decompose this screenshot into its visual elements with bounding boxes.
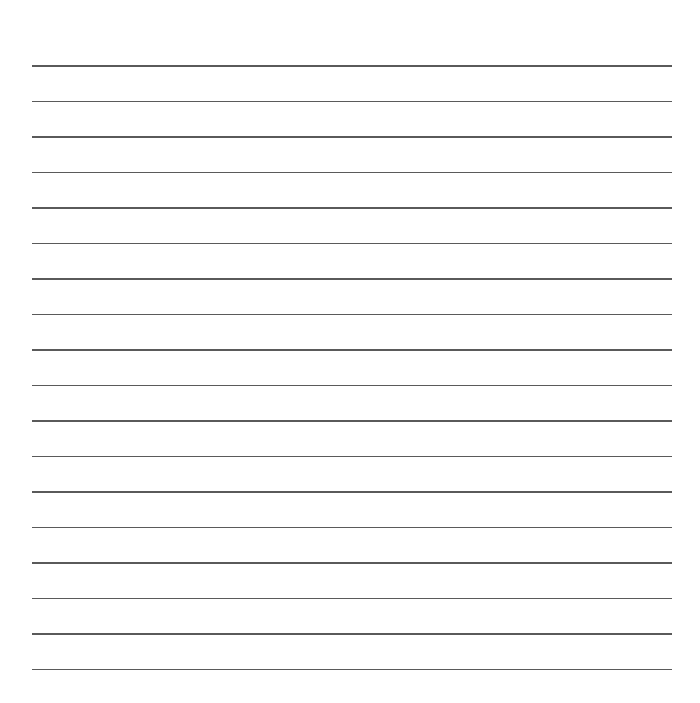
- ruled-line: [32, 669, 672, 671]
- lined-paper-page: [0, 0, 700, 703]
- ruled-line: [32, 314, 672, 316]
- ruled-line: [32, 598, 672, 600]
- ruled-line: [32, 65, 672, 67]
- ruled-line: [32, 527, 672, 529]
- ruled-line: [32, 385, 672, 387]
- ruled-line: [32, 562, 672, 564]
- ruled-line: [32, 101, 672, 103]
- ruled-line: [32, 420, 672, 422]
- ruled-line: [32, 456, 672, 458]
- ruled-line: [32, 278, 672, 280]
- ruled-line: [32, 349, 672, 351]
- ruled-line: [32, 491, 672, 493]
- ruled-line: [32, 136, 672, 138]
- ruled-line: [32, 633, 672, 635]
- ruled-line: [32, 207, 672, 209]
- ruled-line: [32, 243, 672, 245]
- ruled-line: [32, 172, 672, 174]
